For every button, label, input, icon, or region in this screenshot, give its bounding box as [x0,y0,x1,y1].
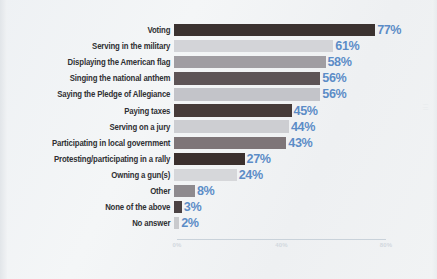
bar-area: 3% [174,199,437,215]
horizontal-bar-chart: Voting77%Serving in the military61%Displ… [0,0,437,279]
bar-area: 27% [174,151,437,167]
bar-row: Paying taxes45% [0,102,437,118]
bar-row: Saying the Pledge of Allegiance56% [0,86,437,102]
bar-area: 61% [174,38,437,54]
bar-row: Participating in local government43% [0,135,437,151]
chart-page: Voting77%Serving in the military61%Displ… [0,0,437,279]
bar-row: No answer2% [0,215,437,231]
bar-row: Serving on a jury44% [0,119,437,135]
bar-area: 24% [174,167,437,183]
category-label: Serving on a jury [12,122,174,132]
value-label: 61% [335,40,359,52]
bar-rows: Voting77%Serving in the military61%Displ… [0,22,437,231]
x-axis-ticks: 0%40%80% [177,242,386,254]
bar-area: 2% [174,215,437,231]
value-label: 45% [294,105,318,117]
bar-row: None of the above3% [0,199,437,215]
category-label: Other [12,186,174,196]
bar [174,40,333,52]
category-label: Displaying the American flag [12,57,174,67]
bar [174,137,286,149]
category-label: None of the above [12,202,174,212]
bar-row: Displaying the American flag58% [0,54,437,70]
bar-area: 77% [174,22,437,38]
bar [174,88,320,100]
bar-area: 44% [174,119,437,135]
value-label: 44% [291,121,315,133]
x-axis-tick-label: 40% [275,242,288,248]
bar [174,104,292,116]
category-label: Saying the Pledge of Allegiance [12,89,174,99]
value-label: 58% [328,56,352,68]
bar [174,72,320,84]
category-label: No answer [12,218,174,228]
category-label: Protesting/participating in a rally [12,154,174,164]
bar-area: 58% [174,54,437,70]
category-label: Serving in the military [12,41,174,51]
value-label: 8% [197,185,214,197]
watermark-text: ||| [423,104,429,112]
category-label: Participating in local government [12,138,174,148]
bar [174,185,195,197]
bar-row: Singing the national anthem56% [0,70,437,86]
bar-row: Voting77% [0,22,437,38]
category-label: Voting [12,25,174,35]
bar-row: Protesting/participating in a rally27% [0,151,437,167]
bar [174,201,182,213]
x-axis-tick-label: 0% [172,242,181,248]
category-label: Singing the national anthem [12,73,174,83]
bar-area: 56% [174,86,437,102]
bar-row: Serving in the military61% [0,38,437,54]
bar [174,56,326,68]
x-axis-tick-label: 80% [380,242,393,248]
bar [174,217,179,229]
value-label: 27% [247,153,271,165]
category-label: Owning a gun(s) [12,170,174,180]
value-label: 2% [181,217,198,229]
bar [174,120,289,132]
bar [174,153,245,165]
bar-area: 8% [174,183,437,199]
bar-row: Owning a gun(s)24% [0,167,437,183]
bar-area: 56% [174,70,437,86]
value-label: 43% [288,137,312,149]
bar-row: Other8% [0,183,437,199]
x-axis-line [177,239,386,240]
value-label: 24% [239,169,263,181]
value-label: 56% [322,72,346,84]
value-label: 3% [184,201,201,213]
bar-area: 43% [174,135,437,151]
value-label: 77% [377,24,401,36]
bar [174,24,375,36]
value-label: 56% [322,88,346,100]
bar-area: 45% [174,102,437,118]
bar [174,169,237,181]
category-label: Paying taxes [12,106,174,116]
